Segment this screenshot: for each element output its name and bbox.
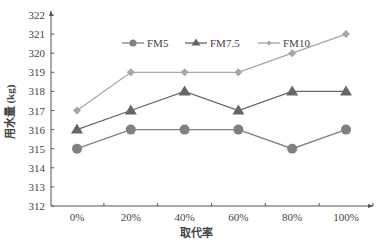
x-axis-label: 取代率	[180, 226, 213, 239]
y-tick-label: 316	[29, 124, 46, 136]
y-tick-label: 312	[29, 200, 46, 212]
y-axis-ticks: 312313314315316317318319320321322	[29, 9, 55, 212]
circle-marker-icon	[180, 125, 190, 135]
y-tick-label: 322	[29, 9, 46, 21]
x-tick-label: 80%	[282, 211, 302, 223]
line-chart: 312313314315316317318319320321322 0%20%4…	[0, 0, 380, 243]
diamond-marker-icon	[288, 49, 296, 57]
triangle-marker-icon	[192, 39, 201, 46]
series-fm5	[72, 125, 351, 154]
x-tick-label: 0%	[70, 211, 85, 223]
circle-marker-icon	[130, 40, 137, 47]
legend-item: FM10	[258, 37, 310, 49]
diamond-marker-icon	[267, 41, 272, 46]
triangle-marker-icon	[340, 85, 352, 95]
legend-label: FM7.5	[210, 37, 240, 49]
y-tick-label: 317	[29, 105, 46, 117]
y-tick-label: 321	[29, 28, 46, 40]
circle-marker-icon	[233, 125, 243, 135]
x-tick-label: 20%	[121, 211, 141, 223]
y-axis-label: 用水量 (kg)	[3, 84, 17, 139]
diamond-marker-icon	[181, 68, 189, 76]
diamond-marker-icon	[127, 68, 135, 76]
y-axis-arrow-icon	[49, 10, 53, 16]
legend-label: FM5	[147, 37, 169, 49]
series-fm7-5	[71, 85, 352, 133]
x-tick-label: 40%	[175, 211, 195, 223]
y-tick-label: 313	[29, 181, 46, 193]
circle-marker-icon	[287, 144, 297, 154]
circle-marker-icon	[72, 144, 82, 154]
y-tick-label: 319	[29, 66, 46, 78]
legend-item: FM7.5	[185, 37, 240, 49]
circle-marker-icon	[341, 125, 351, 135]
y-tick-label: 320	[29, 47, 46, 59]
x-tick-label: 60%	[228, 211, 248, 223]
diamond-marker-icon	[73, 107, 81, 115]
diamond-marker-icon	[234, 68, 242, 76]
diamond-marker-icon	[342, 30, 350, 38]
y-tick-label: 315	[29, 143, 46, 155]
triangle-marker-icon	[286, 85, 298, 95]
legend: FM5FM7.5FM10	[122, 37, 310, 49]
x-tick-label: 100%	[333, 211, 359, 223]
circle-marker-icon	[126, 125, 136, 135]
legend-item: FM5	[122, 37, 169, 49]
triangle-marker-icon	[179, 85, 191, 95]
y-tick-label: 314	[29, 162, 46, 174]
legend-label: FM10	[283, 37, 310, 49]
y-tick-label: 318	[29, 85, 46, 97]
